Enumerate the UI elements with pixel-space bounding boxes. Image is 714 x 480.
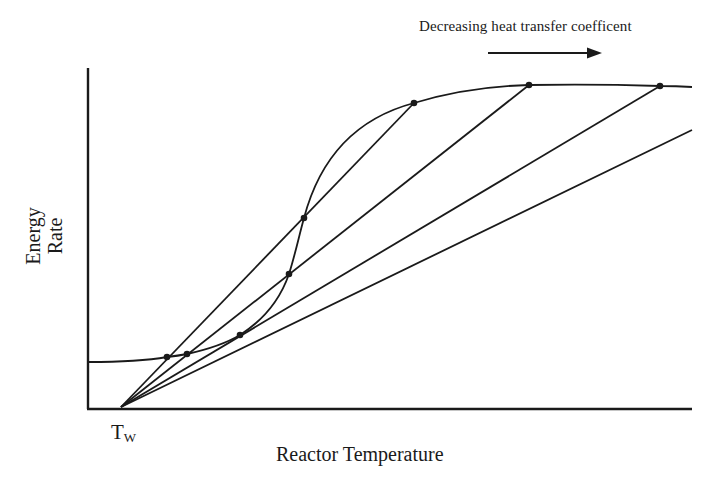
y-axis-label: Energy Rate — [22, 196, 66, 276]
steady-state-point — [657, 83, 664, 90]
removal-line-3 — [121, 86, 660, 407]
y-axis-label-line-2: Rate — [44, 196, 66, 276]
axes — [87, 68, 692, 409]
steady-state-point — [184, 351, 191, 358]
removal-line-1 — [121, 103, 414, 407]
removal-line-2 — [121, 85, 529, 407]
steady-state-point — [526, 82, 533, 89]
steady-state-point — [301, 215, 308, 222]
x-axis-label: Reactor Temperature — [276, 443, 444, 466]
y-axis-label-line-1: Energy — [22, 196, 44, 276]
annotation-text: Decreasing heat transfer coefficent — [419, 18, 632, 35]
origin-label-sub: W — [124, 430, 136, 445]
removal-line-4 — [121, 130, 692, 407]
origin-label-main: T — [111, 420, 124, 444]
steady-state-point — [164, 354, 171, 361]
diagram-canvas — [0, 0, 714, 480]
heat-removal-lines — [121, 85, 692, 407]
steady-state-point — [411, 100, 418, 107]
heat-generation-curve — [88, 85, 692, 362]
steady-state-point — [237, 332, 244, 339]
origin-label-tw: TW — [111, 420, 136, 446]
intersection-points — [164, 82, 664, 361]
steady-state-point — [286, 271, 293, 278]
annotation-arrow-icon — [488, 48, 602, 59]
